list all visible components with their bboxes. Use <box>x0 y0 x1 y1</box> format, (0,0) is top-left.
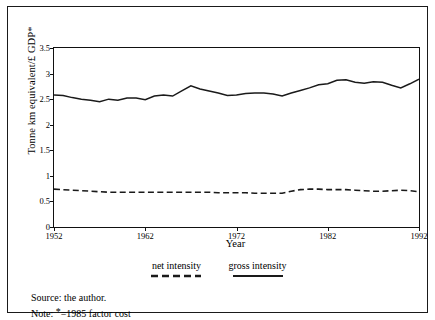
figure-frame: Tonne km equivalent/£ GDP* 00.511.522.53… <box>7 6 428 313</box>
x-tick-mark <box>237 227 238 231</box>
legend-item: net intensity <box>150 260 202 279</box>
legend-item: gross intensity <box>228 260 286 279</box>
x-tick-mark <box>54 227 55 231</box>
legend-label: gross intensity <box>228 260 286 272</box>
x-axis-title: Year <box>53 238 418 249</box>
series-line-net-intensity <box>54 189 419 193</box>
plot-region: 00.511.522.533.519521962197219821992 <box>53 47 420 228</box>
chart-legend: net intensitygross intensity <box>8 260 429 279</box>
y-tick-label: 3.5 <box>39 44 50 53</box>
y-tick-mark <box>50 176 54 177</box>
y-tick-mark <box>50 99 54 100</box>
y-tick-mark <box>50 48 54 49</box>
x-tick-mark <box>145 227 146 231</box>
figure-footer: Source: the author. Note: *=1985 factor … <box>31 291 411 320</box>
note-text: =1985 factor cost <box>61 308 131 319</box>
y-tick-label: 1.5 <box>39 146 50 155</box>
note-prefix: Note: <box>31 308 53 319</box>
y-tick-mark <box>50 74 54 75</box>
y-axis-title: Tonne km equivalent/£ GDP* <box>26 6 37 176</box>
source-line: Source: the author. <box>31 291 411 305</box>
chart-area: Tonne km equivalent/£ GDP* 00.511.522.53… <box>8 7 429 257</box>
legend-swatch-dashed <box>150 273 202 279</box>
figure-page: Tonne km equivalent/£ GDP* 00.511.522.53… <box>0 0 435 320</box>
y-tick-mark <box>50 201 54 202</box>
series-canvas <box>54 48 419 227</box>
cropped-header-text <box>10 0 425 4</box>
y-tick-label: 0.5 <box>39 197 50 206</box>
y-tick-label: 2.5 <box>39 95 50 104</box>
x-tick-mark <box>419 227 420 231</box>
series-line-gross-intensity <box>54 79 419 102</box>
legend-swatch-solid <box>232 273 284 279</box>
x-tick-mark <box>328 227 329 231</box>
note-line: Note: *=1985 factor cost <box>31 305 411 320</box>
y-tick-mark <box>50 150 54 151</box>
legend-label: net intensity <box>152 260 201 272</box>
y-tick-mark <box>50 125 54 126</box>
